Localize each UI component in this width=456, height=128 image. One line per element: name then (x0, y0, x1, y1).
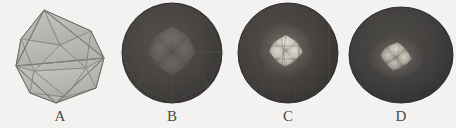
icosahedron-faces (16, 10, 104, 103)
panel-icosahedron: A (0, 0, 120, 128)
geodesic-sphere-d-svg (346, 0, 456, 108)
geodesic-sphere-c-svg (232, 0, 344, 108)
geodesic-sphere-d-render (346, 0, 456, 108)
geodesic-sphere-c-render (232, 0, 344, 108)
figure-container: A (0, 0, 456, 128)
panel-geodesic-sphere-d: D (346, 0, 456, 128)
icosahedron-svg (0, 0, 120, 108)
panel-label-b: B (116, 106, 228, 126)
geodesic-sphere-b-svg (116, 0, 228, 108)
geodesic-sphere-b-render (116, 0, 228, 108)
sphere-d-highlight (369, 38, 423, 78)
icosahedron-render (0, 0, 120, 108)
panel-label-d: D (346, 106, 456, 126)
panel-label-a: A (0, 106, 120, 126)
panel-geodesic-sphere-b: B (116, 0, 228, 128)
panel-geodesic-sphere-c: C (232, 0, 344, 128)
panel-label-c: C (232, 106, 344, 126)
